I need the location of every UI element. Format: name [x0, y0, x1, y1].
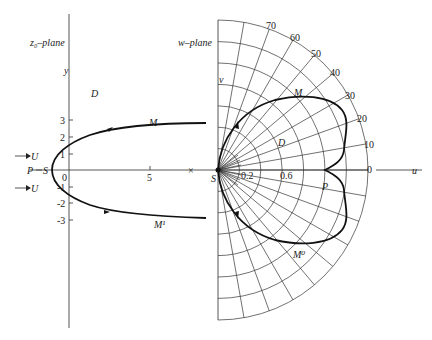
singularity-mark: × [188, 165, 194, 176]
point-p-label: P [26, 165, 33, 176]
w-point-p-label: P [321, 181, 328, 192]
y-tick-neg2: -2 [57, 198, 65, 209]
radius-label-0-2: 0.2 [241, 170, 254, 181]
angle-label-10: 10 [364, 139, 374, 150]
v-axis-label: v [219, 74, 224, 85]
curve-m-label: M [148, 117, 158, 128]
angle-label-70: 70 [266, 20, 276, 31]
angle-label-50: 50 [311, 48, 321, 59]
angle-label-0: 0 [367, 164, 372, 175]
region-d-label: D [90, 88, 99, 99]
x-tick-5: 5 [147, 172, 152, 183]
z0-plane-title: z₀–plane [29, 37, 65, 48]
u-axis-label: u [412, 165, 417, 176]
flow-arrow-lower [15, 185, 31, 191]
streamline-curve [52, 123, 206, 218]
angle-label-20: 20 [357, 113, 367, 124]
flow-arrow-upper [15, 153, 31, 159]
y-tick-neg3: -3 [57, 215, 65, 226]
flow-u-upper: U [31, 151, 39, 162]
z0-plane-panel: 3 2 1 -1 -2 -3 0 5 × z₀–plane y D M M¹ P… [15, 14, 216, 328]
w-region-d-label: D [277, 137, 286, 148]
y-tick-2: 2 [60, 132, 65, 143]
figure: 3 2 1 -1 -2 -3 0 5 × z₀–plane y D M M¹ P… [0, 0, 432, 340]
flow-u-lower: U [31, 183, 39, 194]
angle-label-40: 40 [330, 67, 340, 78]
angle-label-60: 60 [290, 32, 300, 43]
w-curve-m0-label: M⁰ [292, 249, 305, 260]
y-tick-3: 3 [60, 115, 65, 126]
angle-label-30: 30 [345, 90, 355, 101]
x-tick-0: 0 [62, 172, 67, 183]
point-s-label: S [43, 165, 48, 176]
radius-label-0-6: 0.6 [280, 170, 293, 181]
origin-point [216, 168, 221, 173]
stagnation-s-label: S [211, 173, 216, 184]
curve-m1-label: M¹ [153, 219, 165, 230]
w-plane-title: w–plane [178, 37, 212, 48]
y-axis-label: y [63, 65, 69, 76]
